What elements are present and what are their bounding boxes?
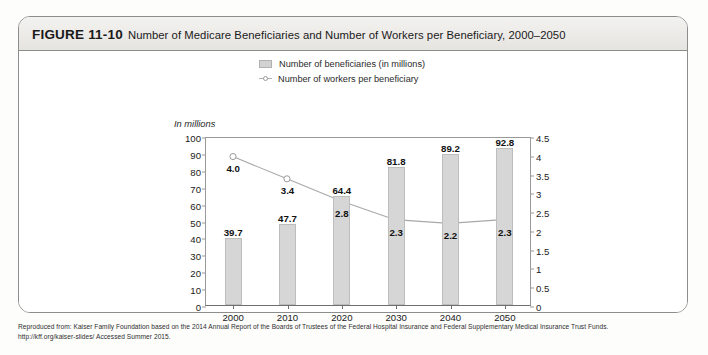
y2-axis-tick-label: 3.5 [536,170,549,181]
y-axis-tick-mark [202,273,206,274]
plot-area: 010203040506070809010000.511.522.533.544… [205,137,531,306]
y-axis-tick-label: 80 [190,166,201,177]
y2-axis-tick-label: 3 [536,189,541,200]
bar-value-label: 64.4 [332,185,351,196]
y2-axis-tick-mark [530,213,534,214]
y-axis-tick-mark [202,290,206,291]
line-value-label: 4.0 [226,163,239,174]
y2-axis-tick-mark [530,194,534,195]
figure-frame: FIGURE 11-10Number of Medicare Beneficia… [18,16,688,313]
y-axis-tick-mark [202,188,206,189]
workers-line-series [206,138,530,305]
y2-axis-tick-label: 0 [536,302,541,313]
x-axis-tick-mark [505,305,506,309]
y-axis-tick-label: 70 [190,183,201,194]
source-line-1: Reproduced from: Kaiser Family Foundatio… [18,322,688,332]
y2-axis-tick-mark [530,250,534,251]
y2-axis-tick-label: 2.5 [536,208,549,219]
chart-body: Number of beneficiaries (in millions) Nu… [19,51,687,312]
y-axis-unit-label: In millions [174,119,215,129]
y-axis-tick-label: 50 [190,217,201,228]
bar-value-label: 92.8 [495,137,514,148]
line-value-label: 2.3 [498,227,511,238]
line-value-label: 2.8 [335,208,348,219]
line-value-label: 2.2 [444,230,457,241]
y-axis-tick-label: 30 [190,251,201,262]
y2-axis-tick-mark [530,175,534,176]
figure-header-text: FIGURE 11-10Number of Medicare Beneficia… [19,25,565,43]
line-value-label: 2.3 [389,227,402,238]
y-axis-tick-mark [202,154,206,155]
x-axis-tick-mark [233,305,234,309]
bar-value-label: 81.8 [387,156,406,167]
y-axis-tick-label: 60 [190,200,201,211]
y-axis-tick-label: 100 [185,133,201,144]
y2-axis-tick-mark [530,156,534,157]
x-axis-tick-mark [396,305,397,309]
line-value-label: 3.4 [281,185,294,196]
y-axis-tick-mark [202,222,206,223]
y-axis-tick-mark [202,256,206,257]
y2-axis-tick-label: 4 [536,151,541,162]
x-axis-tick-mark [288,305,289,309]
workers-line-path [233,157,503,224]
source-line-2: http://kff.org/kaiser-slides/ Accessed S… [18,332,688,342]
figure-header: FIGURE 11-10Number of Medicare Beneficia… [19,17,687,51]
y-axis-tick-mark [202,138,206,139]
line-point-2010 [284,176,290,182]
figure-page: FIGURE 11-10Number of Medicare Beneficia… [0,0,708,355]
y2-axis-tick-mark [530,231,534,232]
source-note: Reproduced from: Kaiser Family Foundatio… [18,322,688,342]
y-axis-tick-mark [202,171,206,172]
y2-axis-tick-label: 1 [536,264,541,275]
y2-axis-tick-label: 4.5 [536,133,549,144]
plot-wrapper: In millions 010203040506070809010000.511… [19,51,687,312]
bar-2010 [279,224,296,305]
y-axis-tick-mark [202,205,206,206]
y-axis-tick-label: 90 [190,149,201,160]
y-axis-tick-label: 10 [190,285,201,296]
figure-number: FIGURE 11-10 [32,27,123,42]
y2-axis-tick-mark [530,288,534,289]
y2-axis-tick-mark [530,307,534,308]
y2-axis-tick-mark [530,269,534,270]
y-axis-tick-mark [202,307,206,308]
y-axis-tick-mark [202,239,206,240]
y2-axis-tick-mark [530,138,534,139]
x-axis-tick-mark [342,305,343,309]
y2-axis-tick-label: 1.5 [536,245,549,256]
line-point-2000 [230,153,236,159]
bar-value-label: 89.2 [441,143,460,154]
bar-2000 [225,238,242,305]
y-axis-tick-label: 20 [190,268,201,279]
y-axis-tick-label: 0 [196,302,201,313]
bar-value-label: 39.7 [224,227,243,238]
x-axis-tick-mark [451,305,452,309]
bar-value-label: 47.7 [278,213,297,224]
y2-axis-tick-label: 2 [536,226,541,237]
figure-title: Number of Medicare Beneficiaries and Num… [128,29,566,41]
y-axis-tick-label: 40 [190,234,201,245]
y2-axis-tick-label: 0.5 [536,283,549,294]
